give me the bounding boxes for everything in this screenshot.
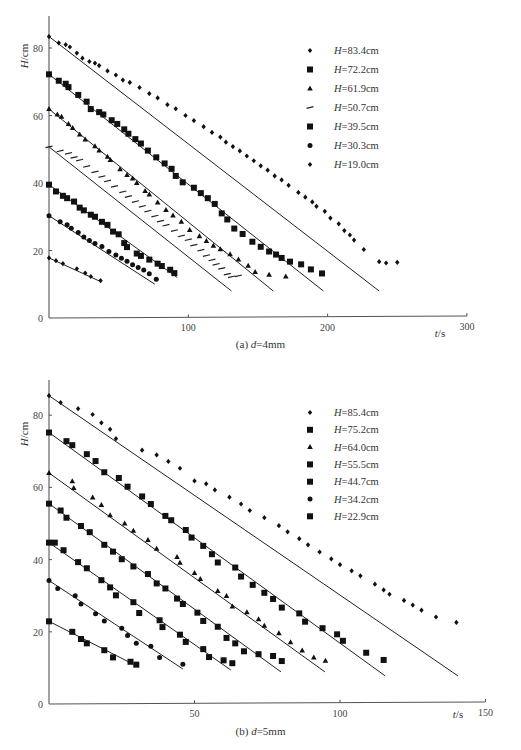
data-point [47, 578, 52, 583]
legend-label: H=85.4cm [333, 407, 379, 418]
data-point [145, 537, 151, 542]
data-point [154, 546, 160, 551]
data-point [87, 59, 91, 64]
data-point [75, 92, 81, 98]
data-point [76, 230, 81, 235]
data-point [323, 658, 329, 663]
data-point [110, 229, 116, 235]
data-series [47, 255, 103, 283]
data-point [128, 80, 132, 85]
data-point [122, 521, 128, 526]
data-point [349, 568, 353, 573]
data-point [194, 610, 200, 616]
data-point [65, 222, 70, 227]
data-point [138, 141, 144, 147]
data-point [90, 412, 94, 417]
data-point [297, 536, 301, 541]
data-point [200, 618, 206, 624]
data-point [125, 131, 131, 137]
data-point [189, 535, 195, 541]
data-point [213, 264, 220, 266]
data-point [201, 124, 205, 129]
data-point [56, 78, 62, 84]
data-point [296, 610, 302, 616]
data-point [171, 230, 178, 232]
data-point [402, 598, 406, 603]
data-point [317, 549, 321, 554]
legend-item: H=72.2cm [307, 64, 379, 75]
data-point [155, 95, 159, 100]
x-tick-label: 150 [478, 707, 493, 718]
data-point [238, 574, 244, 580]
data-point [259, 163, 263, 168]
data-point [75, 559, 81, 565]
data-point [69, 442, 75, 448]
data-point [91, 171, 98, 173]
data-point [66, 84, 72, 90]
data-point [98, 278, 102, 283]
data-point [200, 646, 206, 652]
data-point [113, 592, 119, 598]
data-point [153, 154, 159, 160]
data-point [132, 201, 139, 203]
data-point [76, 406, 80, 411]
data-point [69, 629, 75, 635]
data-point [46, 501, 52, 507]
legend-label: H=75.2cm [333, 424, 379, 435]
data-point [288, 639, 294, 644]
data-point [261, 590, 267, 596]
data-point [110, 549, 116, 555]
data-point [93, 611, 98, 616]
x-tick-label: 50 [190, 708, 200, 719]
data-point [256, 651, 262, 657]
data-point [224, 593, 230, 598]
data-point [174, 554, 180, 559]
data-point [306, 542, 310, 547]
data-point [183, 113, 187, 118]
data-point [266, 249, 272, 255]
legend-marker [307, 86, 313, 91]
scatter-plot-a: 020406080100200300H/cmt/sH=83.4cmH=72.2c… [0, 0, 521, 350]
data-point [231, 144, 235, 149]
data-point [136, 265, 141, 270]
data-point [434, 614, 438, 619]
data-point [46, 106, 52, 111]
data-point [352, 237, 356, 242]
data-point [98, 176, 105, 178]
data-point [228, 276, 235, 278]
data-point [279, 605, 285, 611]
data-point [132, 136, 138, 142]
data-point [69, 478, 75, 483]
data-point [170, 212, 176, 217]
x-axis [49, 316, 467, 318]
data-point [93, 458, 99, 464]
data-point [75, 266, 79, 271]
legend-item: H=83.4cm [308, 45, 379, 56]
y-tick-label: 40 [33, 178, 43, 189]
data-point [248, 508, 252, 513]
data-point [187, 227, 193, 232]
data-point [88, 106, 94, 112]
data-point [209, 551, 215, 557]
data-point [68, 44, 72, 49]
data-point [46, 71, 52, 77]
legend-item: H=22.9cm [307, 511, 379, 522]
data-point [130, 563, 136, 569]
data-point [101, 542, 107, 548]
data-point [178, 235, 185, 237]
data-point [83, 166, 90, 168]
data-point [308, 266, 314, 272]
data-point [134, 641, 139, 646]
data-point [127, 659, 133, 665]
data-point [162, 160, 168, 166]
data-point [203, 255, 210, 257]
data-point [328, 216, 332, 221]
data-point [100, 111, 106, 117]
data-point [179, 219, 185, 224]
caption-value: =5mm [257, 725, 286, 737]
data-point [84, 565, 90, 571]
data-series [47, 393, 459, 676]
data-point [57, 150, 64, 152]
data-point [151, 215, 158, 217]
data-point [47, 255, 51, 260]
